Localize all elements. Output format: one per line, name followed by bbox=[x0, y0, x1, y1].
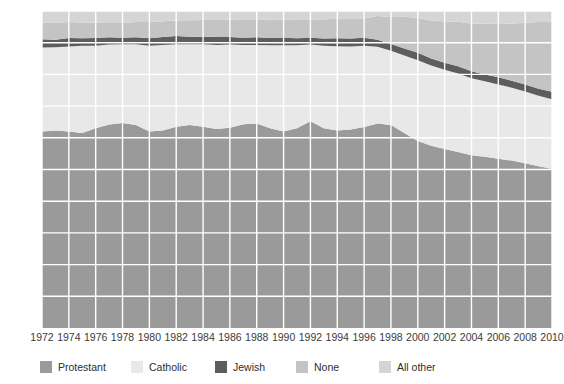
legend-label: All other bbox=[397, 362, 436, 373]
x-tick-label: 1990 bbox=[272, 332, 295, 343]
y-axis-labels: 0%10%20%30%40%50%60%70%80%90%100% bbox=[0, 0, 38, 384]
x-tick-label: 1974 bbox=[57, 332, 80, 343]
legend-label: Protestant bbox=[58, 362, 106, 373]
x-tick-label: 2002 bbox=[433, 332, 456, 343]
x-tick-label: 2004 bbox=[460, 332, 483, 343]
x-tick-label: 1976 bbox=[84, 332, 107, 343]
legend-item-none[interactable]: None bbox=[296, 360, 339, 374]
x-axis-labels: 1972197419761978198019821984198619881990… bbox=[0, 330, 558, 346]
x-tick-label: 2010 bbox=[540, 332, 563, 343]
legend-item-jewish[interactable]: Jewish bbox=[215, 360, 265, 374]
x-tick-label: 1994 bbox=[326, 332, 349, 343]
x-tick-label: 1972 bbox=[30, 332, 53, 343]
legend-label: None bbox=[314, 362, 339, 373]
x-tick-label: 1988 bbox=[245, 332, 268, 343]
x-tick-label: 1996 bbox=[352, 332, 375, 343]
legend-item-protestant[interactable]: Protestant bbox=[40, 360, 106, 374]
x-tick-label: 2000 bbox=[406, 332, 429, 343]
legend-label: Catholic bbox=[149, 362, 187, 373]
legend-swatch-icon bbox=[296, 361, 308, 373]
x-tick-label: 1992 bbox=[299, 332, 322, 343]
x-tick-label: 2006 bbox=[487, 332, 510, 343]
x-tick-label: 1978 bbox=[111, 332, 134, 343]
x-tick-label: 1998 bbox=[379, 332, 402, 343]
chart-legend: ProtestantCatholicJewishNoneAll other bbox=[0, 358, 558, 378]
legend-label: Jewish bbox=[233, 362, 265, 373]
legend-swatch-icon bbox=[215, 361, 227, 373]
legend-swatch-icon bbox=[379, 361, 391, 373]
x-tick-label: 1984 bbox=[191, 332, 214, 343]
x-tick-label: 2008 bbox=[513, 332, 536, 343]
legend-swatch-icon bbox=[40, 361, 52, 373]
legend-item-catholic[interactable]: Catholic bbox=[131, 360, 187, 374]
legend-swatch-icon bbox=[131, 361, 143, 373]
legend-item-all-other[interactable]: All other bbox=[379, 360, 436, 374]
x-tick-label: 1982 bbox=[165, 332, 188, 343]
x-tick-label: 1986 bbox=[218, 332, 241, 343]
x-tick-label: 1980 bbox=[138, 332, 161, 343]
